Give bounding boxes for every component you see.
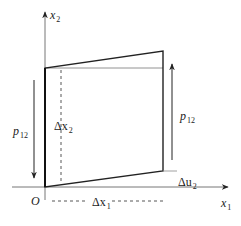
x1-axis-label-sub: 1 xyxy=(227,203,231,212)
p12-left-label-main: p xyxy=(13,124,19,138)
origin-label: O xyxy=(31,195,40,207)
p12-left-label-sub: 12 xyxy=(20,131,28,140)
p12-right-label: p12 xyxy=(180,110,195,125)
x1-axis-label: x1 xyxy=(221,197,231,212)
diagram-canvas xyxy=(0,0,241,226)
dx1-label: Δx1 xyxy=(92,196,111,211)
dx1-label-sub: 1 xyxy=(107,202,111,211)
p12-left-label: p12 xyxy=(13,125,28,140)
dx2-label-sub: 2 xyxy=(69,126,73,135)
x2-axis-label-sub: 2 xyxy=(56,15,60,24)
x1-axis-label-main: x xyxy=(221,196,226,210)
p12-right-label-main: p xyxy=(180,109,186,123)
x2-axis-label-main: x xyxy=(50,8,55,22)
dx2-label: Δx2 xyxy=(54,120,73,135)
du2-label-sub: 2 xyxy=(193,182,197,191)
du2-label: Δu2 xyxy=(178,176,197,191)
du2-label-main: Δu xyxy=(178,175,192,189)
dx2-label-main: Δx xyxy=(54,119,68,133)
x2-axis-label: x2 xyxy=(50,9,60,24)
p12-right-label-sub: 12 xyxy=(187,116,195,125)
dx1-label-main: Δx xyxy=(92,195,106,209)
